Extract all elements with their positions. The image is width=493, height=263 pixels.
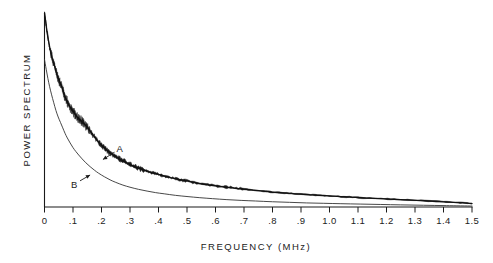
x-tick-label-6: .6	[211, 215, 220, 226]
chart-canvas: 0.1.2.3.4.5.6.7.8.91.01.11.21.31.41.5 AB…	[0, 0, 493, 263]
x-tick-label-4: .4	[154, 215, 163, 226]
x-tick-label-1: .1	[69, 215, 78, 226]
curve-label-b: B	[71, 179, 78, 190]
x-tick-label-7: .7	[240, 215, 249, 226]
x-tick-label-5: .5	[183, 215, 192, 226]
x-tick-label-12: 1.2	[379, 215, 393, 226]
x-tick-label-2: .2	[97, 215, 106, 226]
x-tick-label-9: .9	[297, 215, 306, 226]
x-axis-title: FREQUENCY (MHz)	[201, 241, 311, 252]
x-tick-label-3: .3	[126, 215, 135, 226]
curve-label-a: A	[117, 143, 124, 154]
x-tick-label-0: 0	[42, 215, 48, 226]
x-tick-label-15: 1.5	[465, 215, 479, 226]
x-tick-label-10: 1.0	[322, 215, 336, 226]
x-tick-label-13: 1.3	[408, 215, 422, 226]
x-tick-label-8: .8	[268, 215, 277, 226]
power-spectrum-figure: 0.1.2.3.4.5.6.7.8.91.01.11.21.31.41.5 AB…	[0, 0, 493, 263]
x-axis-title-group: FREQUENCY (MHz)	[201, 241, 311, 252]
y-axis-title-group: POWER SPECTRUM	[21, 54, 32, 167]
x-tick-label-11: 1.1	[351, 215, 365, 226]
y-axis-title: POWER SPECTRUM	[21, 54, 32, 167]
x-tick-label-14: 1.4	[436, 215, 450, 226]
